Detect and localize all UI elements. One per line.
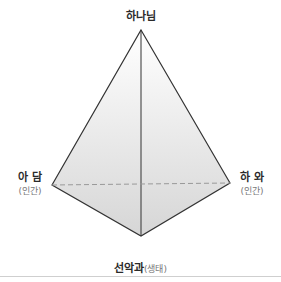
node-left-label: 아 담 — [10, 168, 50, 184]
node-right-label: 하 와 — [232, 168, 272, 184]
node-bottom-label: 선악과 — [114, 262, 144, 275]
node-bottom: 선악과(생태) — [0, 257, 281, 276]
node-left: 아 담 (인간) — [10, 168, 50, 197]
node-bottom-sublabel: (생태) — [144, 264, 167, 274]
node-top-label: 하나님 — [126, 10, 156, 23]
node-right-sublabel: (인간) — [232, 184, 272, 197]
node-left-sublabel: (인간) — [10, 184, 50, 197]
pyramid-shape — [0, 0, 281, 282]
divider-rule — [0, 276, 281, 277]
pyramid-diagram: 하나님 아 담 (인간) 하 와 (인간) 선악과(생태) — [0, 0, 281, 282]
node-right: 하 와 (인간) — [232, 168, 272, 197]
node-top: 하나님 — [0, 5, 281, 24]
